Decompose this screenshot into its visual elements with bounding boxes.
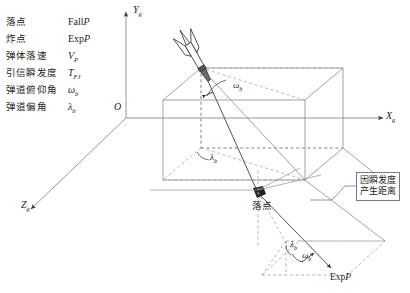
legend-symbol-italic: ω	[68, 84, 75, 95]
omega-subscript: b	[308, 256, 311, 262]
lambda-subscript: b	[294, 245, 297, 251]
exp-point-label: ExpP	[330, 272, 351, 282]
callout-box: 因瞬发度 产生距离	[356, 172, 400, 201]
figure-canvas: 落点 FallP 炸点 ExpP 弹体落速 VP 引信瞬发度 TFJ 弹道俯仰角…	[0, 0, 410, 293]
omega-arc-upper-tick	[206, 92, 213, 95]
callout-line-2: 产生距离	[360, 186, 396, 197]
legend-row: 引信瞬发度 TFJ	[6, 65, 90, 82]
box-top-face	[163, 68, 343, 100]
legend-symbol-main: Fall	[68, 16, 84, 27]
origin-label: O	[114, 101, 121, 112]
fp-line-upright2	[258, 175, 321, 190]
ground-diag-left	[262, 241, 286, 275]
legend-row: 弹体落速 VP	[6, 48, 90, 65]
omega-subscript: b	[239, 86, 242, 92]
legend-row: 落点 FallP	[6, 14, 90, 31]
legend-row: 炸点 ExpP	[6, 31, 90, 48]
y-axis-subscript: g	[139, 10, 142, 17]
legend-row: 弹道俯仰角 ωb	[6, 82, 90, 99]
y-axis-label: Yg	[133, 4, 142, 17]
legend-term: 炸点	[6, 31, 68, 45]
legend-term: 落点	[6, 14, 68, 28]
fall-point-radiating-lines	[150, 168, 321, 190]
fall-point-label: 落点	[252, 198, 272, 212]
z-axis-label: Zg	[21, 199, 30, 212]
legend-term: 弹道偏角	[6, 99, 68, 113]
z-axis	[31, 118, 126, 209]
fp-line-upright	[258, 168, 300, 190]
legend-term: 弹体落速	[6, 48, 68, 62]
legend-symbol: ωb	[68, 84, 78, 97]
legend-symbol-main: Exp	[68, 33, 84, 44]
legend-symbol: λb	[68, 101, 76, 114]
x-axis-label: Xg	[386, 110, 395, 123]
box-right-bottom-edge	[305, 148, 343, 180]
box-top-diagonals	[201, 68, 343, 100]
legend-row: 弹道偏角 λb	[6, 99, 90, 116]
lambda-subscript: b	[214, 158, 217, 164]
exp-point-italic: P	[345, 272, 351, 282]
legend-symbol-sub: b	[72, 107, 75, 114]
legend-symbol: VP	[68, 50, 78, 63]
legend-term: 弹道俯仰角	[6, 82, 68, 96]
legend-symbol-sub: P	[74, 56, 78, 63]
callout-line-1: 因瞬发度	[360, 175, 396, 186]
lambda-b-mid-label: λb	[210, 152, 217, 164]
legend-symbol: FallP	[68, 16, 90, 27]
omega-b-upper-label: ωb	[233, 80, 242, 92]
legend-symbol: ExpP	[68, 33, 90, 44]
fall-point-marker	[253, 186, 266, 198]
box-bottom-diagonals	[163, 148, 343, 180]
legend: 落点 FallP 炸点 ExpP 弹体落速 VP 引信瞬发度 TFJ 弹道俯仰角…	[6, 14, 90, 116]
legend-symbol-sub: b	[75, 90, 78, 97]
projection-ray	[203, 70, 305, 180]
omega-b-lower-label: ωb	[302, 250, 311, 262]
projectile-icon	[171, 25, 217, 85]
legend-term: 引信瞬发度	[6, 65, 68, 79]
ground-parallelogram	[262, 241, 385, 275]
z-axis-subscript: g	[27, 205, 30, 212]
x-axis-subscript: g	[392, 116, 395, 123]
legend-symbol: TFJ	[68, 67, 80, 80]
exp-point-main: Exp	[330, 272, 345, 282]
lambda-b-lower-label: λb	[290, 239, 297, 251]
lower-ground-plane	[262, 241, 385, 275]
legend-symbol-italic: P	[84, 16, 90, 27]
legend-symbol-sub: FJ	[74, 73, 81, 80]
lambda-arc-mid	[197, 152, 209, 160]
box-back-bottom-left	[163, 148, 201, 180]
trajectory-ray	[203, 70, 258, 193]
legend-symbol-italic: P	[84, 33, 90, 44]
